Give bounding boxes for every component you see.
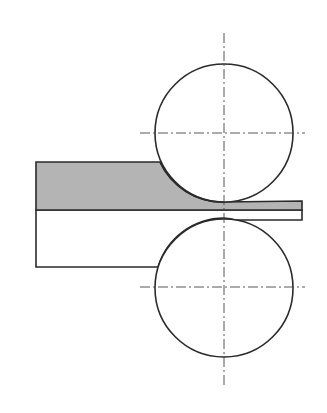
rolling-diagram — [0, 0, 327, 413]
